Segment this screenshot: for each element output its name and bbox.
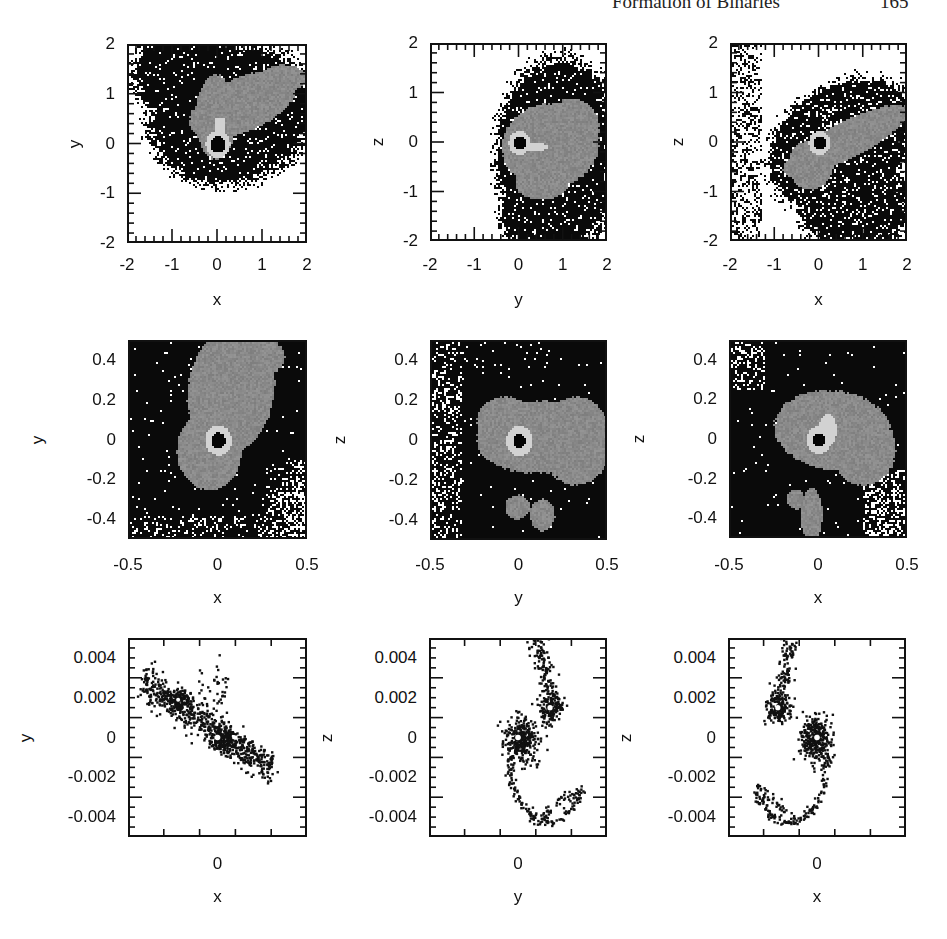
x-tick-label: -1 [767, 255, 782, 275]
plot-canvas [730, 43, 907, 241]
x-tick-label: 0 [212, 255, 221, 275]
y-tick-label: 0 [107, 728, 116, 748]
running-head-title: Formation of Binaries [612, 0, 780, 12]
y-tick-label: 1 [106, 84, 115, 104]
y-tick-label: -0.4 [87, 509, 116, 529]
x-tick-label: 0 [812, 854, 821, 874]
y-tick-label: 0.002 [374, 688, 417, 708]
x-axis-label: x [814, 588, 823, 608]
x-tick-label: 1 [257, 255, 266, 275]
y-axis-label: z [629, 435, 649, 444]
y-tick-label: -1 [100, 183, 115, 203]
plot-canvas [429, 638, 607, 837]
y-axis-label: z [368, 138, 388, 147]
y-axis-label: z [317, 733, 337, 742]
y-tick-label: -2 [703, 231, 718, 251]
x-tick-label: 0.5 [595, 555, 619, 575]
y-tick-label: -0.4 [688, 508, 717, 528]
y-tick-label: -0.002 [668, 767, 716, 787]
y-axis-label: y [16, 733, 36, 742]
y-tick-label: 2 [106, 34, 115, 54]
plot-canvas [128, 340, 307, 539]
y-tick-label: -0.002 [68, 767, 116, 787]
y-tick-label: -0.004 [668, 807, 716, 827]
y-tick-label: 0 [107, 430, 116, 450]
plot-panel-r1c2 [430, 43, 607, 241]
y-tick-label: -1 [703, 182, 718, 202]
y-tick-label: 0.004 [374, 648, 417, 668]
plot-panel-r1c3 [730, 43, 907, 241]
y-axis-label: z [330, 436, 350, 445]
plot-panel-r2c3 [729, 340, 907, 538]
plot-panel-r2c2 [430, 340, 607, 540]
y-tick-label: 0 [709, 132, 718, 152]
page-number: 165 [880, 0, 909, 13]
x-tick-label: 2 [902, 255, 911, 275]
plot-panel-r1c1 [127, 44, 307, 243]
x-axis-label: x [213, 588, 222, 608]
x-tick-label: 0 [813, 555, 822, 575]
x-tick-label: 0 [514, 555, 523, 575]
x-tick-label: 0 [814, 255, 823, 275]
y-axis-label: z [668, 138, 688, 147]
y-tick-label: 0.002 [73, 688, 116, 708]
y-tick-label: -0.004 [369, 807, 417, 827]
y-tick-label: 0.4 [394, 350, 418, 370]
running-head: Formation of Binaries 165 [612, 0, 780, 13]
y-tick-label: 0.4 [693, 350, 717, 370]
plot-canvas [729, 340, 907, 538]
x-tick-label: 0 [513, 854, 522, 874]
plot-panel-r3c2 [429, 638, 607, 837]
y-tick-label: 0 [409, 132, 418, 152]
plot-canvas [127, 44, 307, 243]
x-tick-label: -0.5 [714, 555, 743, 575]
plot-panel-r2c1 [128, 340, 307, 539]
plot-canvas [728, 638, 906, 837]
x-tick-label: -2 [119, 255, 134, 275]
y-tick-label: -0.002 [369, 767, 417, 787]
x-tick-label: -0.5 [113, 555, 142, 575]
x-axis-label: y [514, 887, 523, 907]
y-axis-label: z [616, 733, 636, 742]
y-tick-label: 0.004 [73, 648, 116, 668]
y-tick-label: 0 [408, 728, 417, 748]
plot-panel-r3c3 [728, 638, 906, 837]
x-tick-label: -0.5 [415, 555, 444, 575]
y-tick-label: -2 [100, 233, 115, 253]
x-axis-label: x [813, 887, 822, 907]
x-tick-label: 2 [302, 255, 311, 275]
x-tick-label: 1 [558, 255, 567, 275]
y-tick-label: -0.4 [389, 510, 418, 530]
y-tick-label: 0 [707, 728, 716, 748]
x-tick-label: 0.5 [895, 555, 919, 575]
x-tick-label: -1 [467, 255, 482, 275]
x-tick-label: -2 [722, 255, 737, 275]
y-tick-label: 0.2 [92, 390, 116, 410]
x-axis-label: x [213, 290, 222, 310]
y-tick-label: 2 [409, 33, 418, 53]
y-tick-label: 0 [708, 429, 717, 449]
y-tick-label: -0.2 [87, 469, 116, 489]
x-tick-label: 0.5 [295, 555, 319, 575]
x-axis-label: y [514, 588, 523, 608]
y-tick-label: 0.2 [693, 389, 717, 409]
x-axis-label: y [514, 290, 523, 310]
y-tick-label: 2 [709, 33, 718, 53]
y-tick-label: -1 [403, 182, 418, 202]
y-tick-label: -2 [403, 231, 418, 251]
x-tick-label: -2 [422, 255, 437, 275]
plot-canvas [128, 638, 307, 837]
y-tick-label: -0.004 [68, 807, 116, 827]
y-tick-label: 1 [709, 83, 718, 103]
y-tick-label: -0.2 [688, 469, 717, 489]
y-tick-label: -0.2 [389, 470, 418, 490]
x-tick-label: 0 [514, 255, 523, 275]
y-tick-label: 1 [409, 83, 418, 103]
x-tick-label: 0 [213, 854, 222, 874]
plot-canvas [430, 340, 607, 540]
x-tick-label: 2 [602, 255, 611, 275]
y-tick-label: 0.4 [92, 350, 116, 370]
x-tick-label: 1 [858, 255, 867, 275]
plot-canvas [430, 43, 607, 241]
x-axis-label: x [213, 887, 222, 907]
